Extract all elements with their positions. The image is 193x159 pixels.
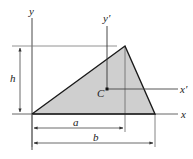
dim-b-label: b bbox=[93, 131, 99, 143]
centroid-label: C bbox=[97, 87, 105, 99]
triangle-shape bbox=[32, 46, 155, 114]
y-axis-label: y bbox=[28, 5, 34, 17]
height-label: h bbox=[10, 72, 16, 84]
dim-a-label: a bbox=[73, 116, 79, 128]
centroid-point bbox=[106, 88, 109, 91]
triangle-diagram: y x y′ x′ C h a b bbox=[0, 0, 193, 159]
x-prime-axis-label: x′ bbox=[179, 83, 188, 95]
x-axis-label: x bbox=[180, 108, 186, 120]
y-prime-axis-label: y′ bbox=[102, 12, 111, 24]
